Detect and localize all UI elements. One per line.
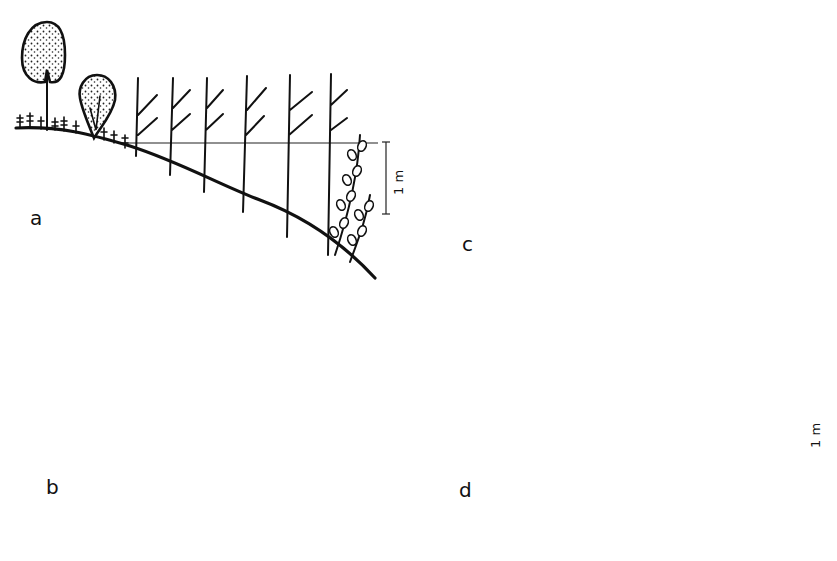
shore-profile [16, 128, 375, 278]
panel-label-a: a [30, 206, 42, 230]
scale-label-a: 1 m [391, 170, 406, 195]
panel-label-d: d [459, 478, 472, 502]
panel-label-b: b [46, 475, 59, 499]
zonation-diagram [0, 0, 837, 561]
panel-a [16, 22, 390, 278]
panel-label-c: c [462, 232, 473, 256]
scale-label-d: 1 m [808, 423, 823, 448]
tree-icon [80, 75, 116, 138]
tree-icon [22, 22, 65, 130]
scale-bar [382, 142, 390, 214]
